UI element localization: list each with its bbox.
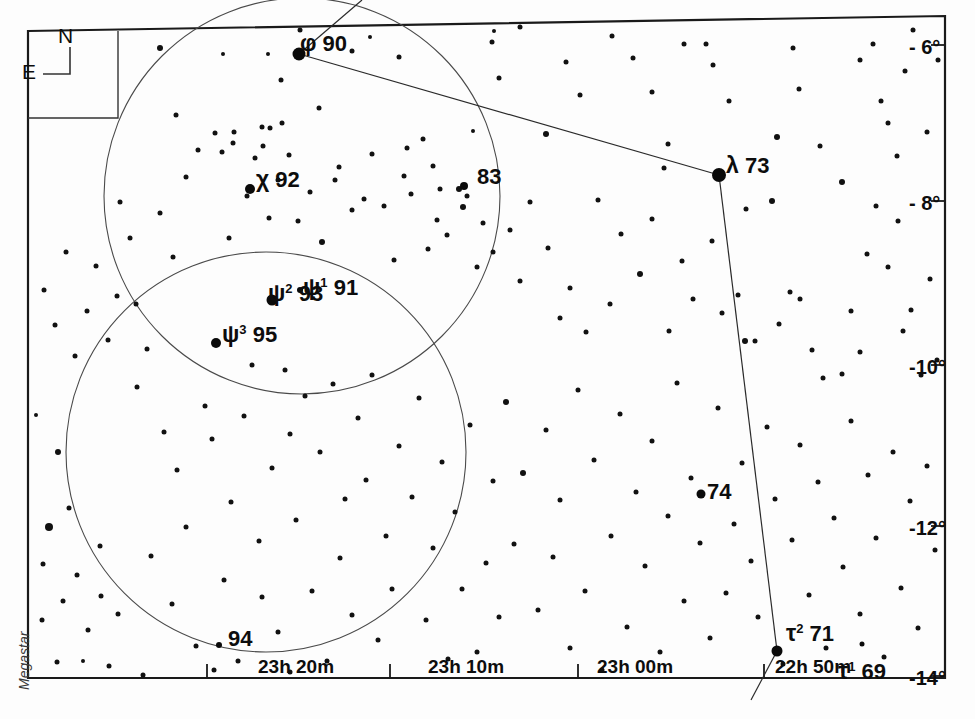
star-dot [460,204,466,210]
ra-axis-label: 22h 50m [775,657,851,676]
axis-ticks [207,45,945,678]
star-dot [134,302,139,307]
star-dot [666,142,671,147]
star-dot [118,200,123,205]
star-dot [798,297,803,302]
star-dot [212,668,217,673]
star-dot [899,586,904,591]
star-dot [86,628,91,633]
star-dot [270,466,275,471]
star-dot [465,194,470,199]
star-label-91: ψ1 91 [303,276,358,299]
star-dot [42,288,47,293]
star-dot [583,589,588,594]
named-star-dot [860,642,865,647]
star-chart: N E Megastar φ 90λ 73χ 9283ψ2 93ψ1 91ψ3 … [0,0,975,719]
star-dot [34,413,38,417]
star-dot [471,129,475,133]
star-dot [576,388,581,393]
star-dot [402,174,407,179]
star-dot [317,106,322,111]
star-dot [260,595,265,600]
star-dot [221,52,225,56]
star-dot [283,368,288,373]
star-dot [909,308,914,313]
star-dot [431,164,436,169]
star-dot [608,302,613,307]
star-dot [849,309,854,314]
star-dot [331,382,336,387]
star-dot [364,478,369,483]
star-dot [242,414,247,419]
star-dot [568,286,573,291]
named-star-dot [245,184,255,194]
star-dot [227,236,232,241]
star-dot [508,228,513,233]
star-dot [390,587,395,592]
star-dot [744,207,749,212]
star-dot [319,239,325,245]
star-dot [925,130,930,135]
star-dot [55,449,61,455]
star-dot [658,650,663,655]
star-dot [475,650,480,655]
dec-axis-label: -12° [909,518,946,538]
star-dot [849,419,854,424]
dec-axis-label: -10° [909,357,946,377]
star-dot [773,497,778,502]
star-dot [350,208,355,213]
star-dot [503,399,509,405]
star-dot [631,56,636,61]
star-dot [749,559,754,564]
compass-arms-icon [43,47,70,74]
star-dot [818,144,823,149]
star-dot [116,612,121,617]
star-dot [568,646,573,651]
star-dot [220,150,225,155]
star-dot [308,190,313,195]
star-dot [376,638,381,643]
star-dot [609,534,614,539]
star-dot [858,612,863,617]
star-dot [338,556,343,561]
constellation-lines [299,0,777,700]
star-dot [55,660,60,665]
star-dot [886,121,891,126]
star-dot [337,165,342,170]
star-dot [397,444,402,449]
star-dot [149,554,154,559]
star-dot [520,470,526,476]
star-dot [229,500,234,505]
star-dot [558,316,563,321]
star-dot [94,264,99,269]
star-dot [490,40,495,45]
star-dot [106,338,111,343]
star-dot [543,131,549,137]
named-star-dot [211,338,221,348]
star-dot [356,416,361,421]
star-dot [933,548,938,553]
star-dot [40,618,45,623]
constellation-line [751,651,777,700]
star-dot [650,90,655,95]
star-dot [261,144,266,149]
constellation-line [719,175,777,651]
star-dot [708,636,713,641]
star-label-73: λ 73 [726,154,769,177]
star-dot [544,428,549,433]
star-dot [145,347,150,352]
star-dot [756,615,761,620]
star-dot [497,615,502,620]
star-dot [790,538,795,543]
star-label-71: τ2 71 [786,622,834,645]
star-dot [879,99,884,104]
constellation-line [299,54,719,175]
star-dot [596,198,601,203]
star-dot [788,290,793,295]
star-dot [67,506,72,511]
star-dot [362,197,367,202]
star-dot [925,464,930,469]
star-dot [871,42,876,47]
star-dot [680,259,685,264]
ra-axis-label: 23h 20m [258,657,334,676]
